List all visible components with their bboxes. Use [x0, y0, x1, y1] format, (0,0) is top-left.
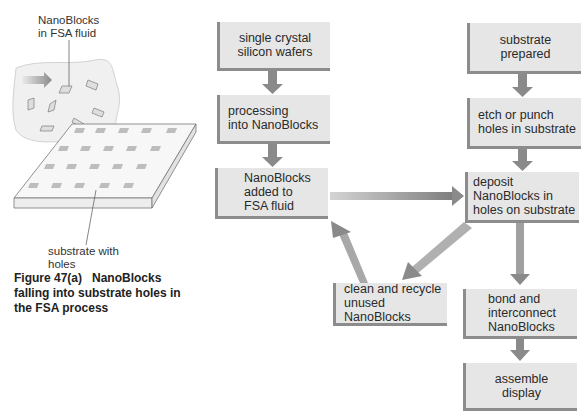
arrow-down-icon [510, 339, 530, 361]
box-text: NanoBlocks [344, 310, 447, 324]
box-text: clean and recycle [344, 282, 447, 296]
box-silicon-wafers: single crystal silicon wafers [217, 22, 330, 71]
box-assemble-display: assemble display [463, 363, 577, 411]
label-line: NanoBlocks [38, 14, 99, 27]
box-clean-recycle: clean and recycle unused NanoBlocks [333, 283, 447, 326]
box-text: bond and [488, 292, 577, 306]
box-text: single crystal [239, 31, 311, 45]
caption-line: Figure 47(a) NanoBlocks [14, 271, 181, 286]
arrow-down-icon [262, 144, 283, 167]
box-text: holes in substrate [478, 122, 581, 136]
arrow-diagonal-icon [402, 222, 472, 280]
box-text: NanoBlocks [244, 171, 328, 185]
box-text: added to [244, 185, 328, 199]
caption-line: the FSA process [14, 301, 181, 316]
label-line: holes [48, 258, 119, 271]
substrate-label: substrate with holes [48, 245, 119, 271]
label-line: in FSA fluid [38, 27, 99, 40]
box-text: NanoBlocks in [473, 189, 579, 203]
box-substrate-prepared: substrate prepared [467, 23, 581, 74]
nanoblocks-label: NanoBlocks in FSA fluid [38, 14, 99, 40]
box-text: substrate [500, 33, 551, 47]
arrow-down-icon [262, 71, 283, 94]
box-text: prepared [500, 47, 550, 61]
label-line: substrate with [48, 245, 119, 258]
arrow-right-icon [330, 186, 464, 206]
box-added-to-fluid: NanoBlocks added to FSA fluid [215, 168, 328, 219]
arrow-down-icon [512, 149, 533, 171]
box-text: into NanoBlocks [228, 118, 330, 132]
box-processing: processing into NanoBlocks [217, 95, 330, 144]
box-text: interconnect [488, 306, 577, 320]
arrow-diagonal-icon [331, 221, 368, 283]
box-text: silicon wafers [237, 45, 312, 59]
box-text: holes on substrate [473, 203, 579, 217]
box-bond-interconnect: bond and interconnect NanoBlocks [463, 289, 577, 339]
substrate-plate-icon [14, 124, 196, 245]
box-text: etch or punch [478, 108, 581, 122]
box-deposit: deposit NanoBlocks in holes on substrate [465, 172, 579, 223]
caption-line: falling into substrate holes in [14, 286, 181, 301]
box-text: FSA fluid [244, 199, 328, 213]
figure-caption: Figure 47(a) NanoBlocks falling into sub… [14, 271, 181, 316]
box-text: NanoBlocks [488, 320, 577, 334]
box-etch-holes: etch or punch holes in substrate [467, 98, 581, 149]
box-text: processing [228, 104, 330, 118]
arrow-down-icon [510, 223, 530, 285]
box-text: display [502, 386, 541, 400]
box-text: deposit [473, 175, 579, 189]
arrow-down-icon [512, 74, 533, 97]
box-text: assemble [495, 372, 549, 386]
box-text: unused [344, 296, 447, 310]
